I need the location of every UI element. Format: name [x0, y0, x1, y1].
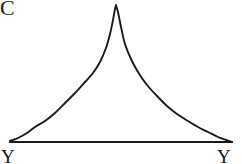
density-curve-path: [10, 5, 232, 142]
density-curve-plot: [0, 0, 242, 164]
plot-ink: [10, 5, 232, 142]
axis-label-left: Y: [1, 147, 15, 164]
figure-panel: C Y Y: [0, 0, 242, 164]
axis-label-right: Y: [217, 147, 231, 164]
